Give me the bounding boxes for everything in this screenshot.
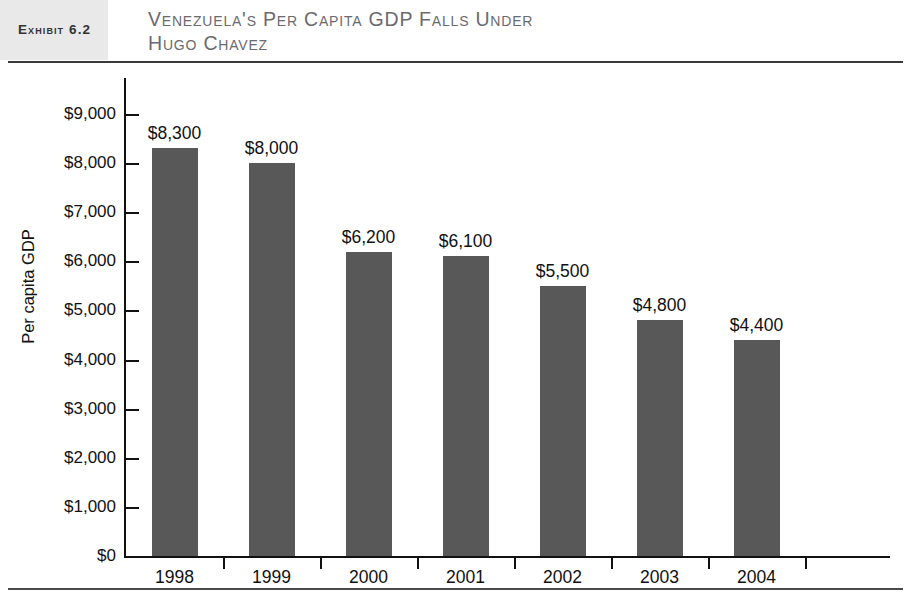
y-axis-tick [126,458,139,460]
y-axis-tick [126,556,139,558]
bar-value-label: $4,800 [610,295,710,316]
bar [152,148,198,556]
y-axis-title: Per capita GDP [19,207,38,367]
y-axis-tick [126,212,139,214]
y-axis-tick-label: $8,000 [32,153,116,173]
y-axis-tick [126,507,139,509]
y-axis-tick-label: $7,000 [32,202,116,222]
y-axis-tick-label: $2,000 [32,448,116,468]
x-axis-label: 2000 [319,567,419,588]
y-axis-tick [126,163,139,165]
bar-value-label: $4,400 [707,315,807,336]
y-axis-tick [126,261,139,263]
bar [443,256,489,556]
footer-divider [8,588,903,590]
bar-value-label: $6,200 [319,227,419,248]
x-axis-label: 2004 [707,567,807,588]
y-axis-tick-label: $4,000 [32,350,116,370]
y-axis-tick [126,310,139,312]
x-axis-label: 1998 [125,567,225,588]
y-axis-tick-label: $3,000 [32,399,116,419]
bar [346,252,392,556]
y-axis-tick-label: $5,000 [32,300,116,320]
x-axis-label: 1999 [222,567,322,588]
y-axis-tick [126,409,139,411]
bar [249,163,295,556]
bar-value-label: $5,500 [513,261,613,282]
y-axis-tick-label: $6,000 [32,251,116,271]
y-axis-tick-label: $9,000 [32,104,116,124]
y-axis-tick [126,114,139,116]
y-axis-tick-label: $1,000 [32,497,116,517]
bar [637,320,683,556]
chart-plot-area: Per capita GDP $0$1,000$2,000$3,000$4,00… [0,62,911,582]
bar [540,286,586,556]
exhibit-number-label: Exhibit 6.2 [18,22,91,37]
bar-value-label: $8,300 [125,123,225,144]
x-axis-label: 2001 [416,567,516,588]
exhibit-header: Exhibit 6.2 Venezuela's Per Capita GDP F… [0,0,911,60]
page-title: Venezuela's Per Capita GDP Falls Under H… [148,7,888,55]
y-axis-line [124,78,126,556]
x-axis-label: 2003 [610,567,710,588]
bar-value-label: $8,000 [222,138,322,159]
bar-value-label: $6,100 [416,231,516,252]
x-axis-label: 2002 [513,567,613,588]
exhibit-number-block: Exhibit 6.2 [0,0,108,60]
y-axis-tick-label: $0 [32,546,116,566]
x-axis-line [124,556,890,558]
y-axis-tick [126,360,139,362]
bar [734,340,780,556]
